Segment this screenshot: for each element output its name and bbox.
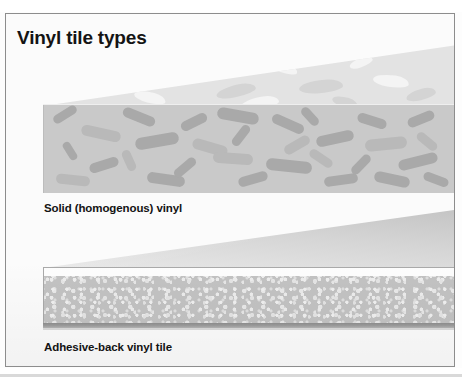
solid-vinyl-diagram	[6, 44, 455, 196]
figure-root: Vinyl tile types	[0, 0, 462, 382]
tile-bottom-shadow	[43, 328, 455, 330]
caption-adhesive-back-vinyl-tile: Adhesive-back vinyl tile	[44, 341, 172, 353]
figure-frame: Vinyl tile types	[5, 13, 455, 367]
solid-vinyl-body-cross-section	[43, 105, 455, 193]
top-surface-sheen	[43, 206, 455, 268]
adhesive-tile-top-surface	[43, 206, 455, 268]
solid-vinyl-top-surface	[43, 44, 455, 106]
top-surface-sheen	[43, 44, 455, 106]
adhesive-back-tile-diagram	[6, 206, 455, 338]
wear-layer	[43, 267, 455, 276]
page-rule	[0, 374, 462, 377]
speckled-vinyl-body	[43, 276, 455, 323]
page-margin-top	[0, 0, 462, 12]
